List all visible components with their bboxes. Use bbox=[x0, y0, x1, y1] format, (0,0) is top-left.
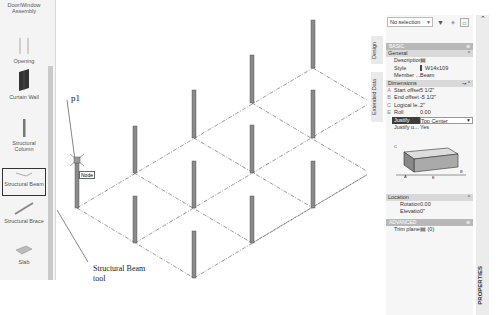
prop-value: Yes bbox=[420, 124, 473, 132]
prop-value: -5 1/2" bbox=[420, 94, 473, 102]
tool-structural-brace[interactable]: Structural Brace bbox=[2, 200, 46, 224]
auto-hide-icon[interactable]: ⌃ bbox=[476, 15, 489, 23]
structural-columns bbox=[75, 20, 367, 278]
snap-tooltip: Node bbox=[79, 171, 95, 179]
tool-structural-column[interactable]: Structural Column bbox=[2, 118, 46, 152]
prop-key: Justify u... bbox=[392, 124, 420, 132]
prop-value: (0) bbox=[428, 226, 435, 232]
prop-value: 5 1/2" bbox=[420, 87, 473, 95]
prop-key: Start offset bbox=[392, 87, 420, 95]
prop-row-start-offset[interactable]: A Start offset 5 1/2" bbox=[386, 87, 473, 95]
basic-header-label: BASIC bbox=[389, 43, 404, 49]
chevron-down-icon: ▼ bbox=[466, 117, 471, 125]
properties-panel: No selection ▼ ▼ ⌖ □ BASIC ⊛ General ^ D… bbox=[386, 15, 473, 315]
prop-value: Top Center bbox=[421, 118, 448, 124]
beam-style-icon bbox=[420, 65, 422, 71]
edit-icon[interactable]: ▤ bbox=[420, 57, 473, 65]
tab-design[interactable]: Design bbox=[371, 36, 383, 64]
prop-value: Beam bbox=[420, 72, 473, 80]
advanced-header[interactable]: ADVANCED ⊛ bbox=[386, 219, 473, 226]
slab-icon bbox=[14, 243, 34, 257]
prop-key: Style bbox=[392, 65, 420, 73]
chevron-down-icon: ▼ bbox=[426, 18, 431, 26]
p1-leader-line bbox=[67, 100, 75, 160]
tool-label: Door/Window Assembly bbox=[7, 2, 40, 14]
category-dimensions-label: Dimensions bbox=[388, 80, 417, 86]
prop-value: 2" bbox=[420, 102, 473, 110]
prop-row-elevation[interactable]: Elevation 0" bbox=[386, 208, 473, 216]
prop-row-logical-length[interactable]: C Logical le... 2" bbox=[386, 102, 473, 110]
prop-row-justify-using[interactable]: Justify u... Yes bbox=[386, 124, 473, 132]
select-objects-icon[interactable]: ⌖ bbox=[448, 18, 457, 27]
prop-row-trim-planes[interactable]: Trim planes ▤ (0) bbox=[386, 226, 473, 234]
tool-slab[interactable]: Slab bbox=[2, 243, 46, 265]
prop-key: Description bbox=[392, 57, 420, 65]
prop-key: Rotation bbox=[392, 201, 420, 209]
beam-preview-image: C A E B bbox=[386, 132, 473, 194]
callout-line-2: tool bbox=[93, 274, 145, 284]
beam-diagram-icon: C A E B bbox=[386, 132, 473, 194]
tool-label: Structural Column bbox=[12, 140, 36, 152]
prop-row-justify[interactable]: Justify Top Center▼ bbox=[386, 117, 473, 125]
properties-title-bar[interactable]: ⌃ PROPERTIES bbox=[476, 15, 489, 315]
category-general[interactable]: General ^ bbox=[386, 50, 473, 57]
tool-label: Structural Brace bbox=[4, 218, 43, 224]
callout-line-1: Structural Beam bbox=[93, 264, 145, 274]
drawing-viewport[interactable] bbox=[57, 0, 367, 300]
prop-row-description[interactable]: Description ▤ bbox=[386, 57, 473, 65]
palette-scrollbar[interactable] bbox=[48, 66, 53, 280]
tab-extended-data[interactable]: Extended Data bbox=[371, 72, 383, 122]
properties-toolbar: No selection ▼ ▼ ⌖ □ bbox=[386, 15, 473, 29]
advanced-header-label: ADVANCED bbox=[389, 219, 416, 225]
quick-select-icon[interactable]: ▼ bbox=[436, 18, 445, 27]
selection-dropdown[interactable]: No selection ▼ bbox=[387, 17, 433, 27]
prop-key: Trim planes bbox=[392, 226, 420, 234]
chevron-up-icon: ^ bbox=[468, 50, 470, 57]
svg-text:B: B bbox=[460, 169, 463, 174]
category-dimensions[interactable]: Dimensions ↝ ^ bbox=[386, 80, 473, 87]
opening-icon bbox=[16, 36, 32, 56]
tool-label: Slab bbox=[18, 259, 29, 265]
tool-door-window-assembly[interactable]: Door/Window Assembly bbox=[2, 2, 46, 14]
collapse-icon: ⊛ bbox=[466, 43, 470, 50]
selection-value: No selection bbox=[390, 19, 420, 25]
prop-value: 0.00 bbox=[420, 109, 473, 117]
category-location[interactable]: Location ^ bbox=[386, 194, 473, 201]
prop-value: 0.00 bbox=[420, 201, 473, 209]
structural-beam-icon bbox=[14, 171, 34, 179]
tool-curtain-wall[interactable]: Curtain Wall bbox=[2, 68, 46, 100]
prop-key: End offset bbox=[392, 94, 420, 102]
prop-row-end-offset[interactable]: B End offset -5 1/2" bbox=[386, 94, 473, 102]
category-general-label: General bbox=[388, 50, 408, 56]
point-label-p1: p1 bbox=[71, 93, 80, 103]
structural-column-icon bbox=[16, 118, 32, 138]
callout-leader-line bbox=[57, 210, 88, 262]
prop-row-roll[interactable]: E Roll 0.00 bbox=[386, 109, 473, 117]
properties-title: PROPERTIES bbox=[477, 266, 483, 305]
svg-text:A: A bbox=[404, 174, 407, 179]
tool-opening[interactable]: Opening bbox=[2, 36, 46, 64]
tool-label: Opening bbox=[14, 58, 35, 64]
tool-structural-beam[interactable]: Structural Beam bbox=[2, 168, 46, 196]
toggle-pickadd-icon[interactable]: □ bbox=[460, 18, 469, 27]
grid-lines bbox=[77, 68, 367, 278]
edit-icon[interactable]: ▤ bbox=[420, 226, 428, 232]
svg-text:E: E bbox=[432, 175, 435, 180]
category-location-label: Location bbox=[388, 194, 409, 200]
prop-key: Logical le... bbox=[392, 102, 420, 110]
curtain-wall-icon bbox=[16, 68, 32, 92]
prop-row-member[interactable]: Member ... Beam bbox=[386, 72, 473, 80]
structural-brace-icon bbox=[13, 200, 35, 216]
prop-row-style[interactable]: Style W14x109 bbox=[386, 65, 473, 73]
chevron-up-icon: ^ bbox=[468, 194, 470, 201]
tool-palette: Door/Window Assembly Opening Curtain Wal… bbox=[0, 0, 56, 280]
collapse-icon: ⊛ bbox=[466, 219, 470, 226]
prop-row-rotation[interactable]: Rotation 0.00 bbox=[386, 201, 473, 209]
callout-structural-beam-tool: Structural Beam tool bbox=[93, 264, 145, 284]
prop-key: Justify bbox=[392, 117, 420, 125]
prop-value: 0" bbox=[420, 208, 473, 216]
svg-text:C: C bbox=[394, 144, 397, 149]
tool-label: Curtain Wall bbox=[9, 94, 39, 100]
basic-header[interactable]: BASIC ⊛ bbox=[386, 43, 473, 50]
justify-dropdown[interactable]: Top Center▼ bbox=[420, 117, 473, 125]
